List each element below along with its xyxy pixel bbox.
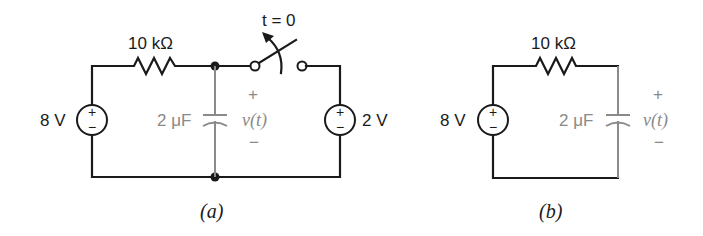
source-minus-sign: − [489,119,497,135]
voltage-plus-sign: + [653,85,663,104]
resistor-a-label: 10 kΩ [128,34,173,53]
caption-a: (a) [200,200,224,223]
capacitor-b-icon [606,66,630,178]
circuit-figure: t = 0 + − 8 V + − 2 V 10 kΩ 2 μF + v(t) … [0,0,703,236]
source-plus-sign: + [88,104,96,120]
source-minus-sign: − [336,119,344,135]
capacitor-a-label: 2 μF [157,111,191,130]
voltage-minus-sign: − [654,133,664,152]
capacitor-a-icon [203,66,227,177]
source-plus-sign: + [489,104,497,120]
caption-b: (b) [539,200,563,223]
source-left-label: 8 V [40,111,66,130]
source-b-label: 8 V [440,111,466,130]
wire-b-bottom [493,135,618,178]
switch-time-label: t = 0 [262,11,296,30]
voltage-plus-sign: + [248,85,258,104]
source-minus-sign: − [88,119,96,135]
resistor-a-icon [130,58,178,74]
voltage-minus-sign: − [249,133,259,152]
circuit-a: t = 0 + − 8 V + − 2 V 10 kΩ 2 μF + v(t) … [40,11,388,223]
capacitor-b-label: 2 μF [559,111,593,130]
circuit-b: + − 8 V 10 kΩ 2 μF + v(t) − (b) [440,34,668,223]
resistor-b-label: 10 kΩ [531,34,576,53]
wire-a-top-left [92,66,130,105]
resistor-b-icon [533,58,618,74]
wire-a-right-top [306,66,340,105]
wire-b-top-left [493,66,533,105]
source-right-label: 2 V [362,111,388,130]
source-plus-sign: + [336,104,344,120]
voltage-a-label: v(t) [242,110,267,131]
voltage-b-label: v(t) [643,110,668,131]
